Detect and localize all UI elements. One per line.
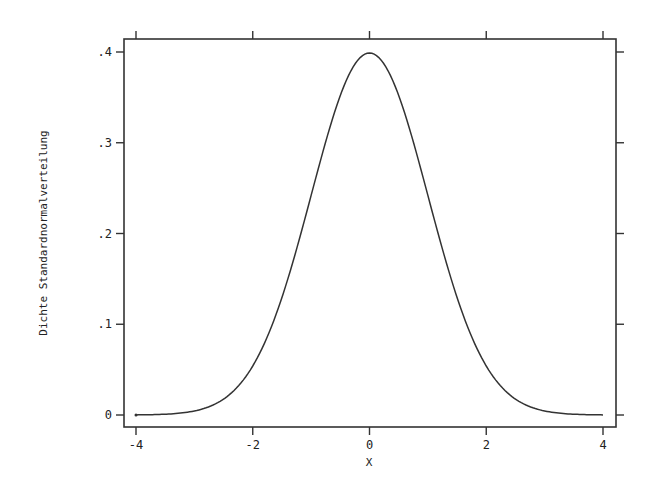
x-tick-label: 0 (366, 438, 373, 452)
x-tick-label: -2 (246, 438, 260, 452)
x-axis-label: X (366, 456, 373, 469)
plot-frame (124, 39, 616, 427)
y-tick-label: .1 (98, 317, 112, 331)
x-axis-top-ticks (136, 31, 603, 39)
y-axis-right-ticks (616, 52, 624, 415)
y-tick-label: .3 (98, 136, 112, 150)
density-curve (136, 53, 603, 415)
y-axis-left-ticks: 0.1.2.3.4 (98, 45, 124, 422)
x-axis-bottom-ticks: -4-2024 (129, 427, 607, 452)
x-tick-label: 4 (599, 438, 606, 452)
x-tick-label: -4 (129, 438, 143, 452)
x-tick-label: 2 (483, 438, 490, 452)
y-tick-label: .4 (98, 45, 112, 59)
y-axis-label: Dichte Standardnormalverteilung (37, 130, 50, 335)
density-chart: 0.1.2.3.4 -4-2024 X Dichte Standardnorma… (0, 0, 654, 488)
curve-start-marker (135, 413, 138, 416)
y-tick-label: .2 (98, 227, 112, 241)
y-tick-label: 0 (105, 408, 112, 422)
